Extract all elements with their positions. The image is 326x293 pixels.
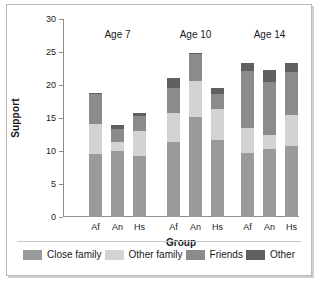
y-axis-tick-label: 15 <box>46 113 56 123</box>
bar-segment <box>89 154 102 217</box>
x-axis-tick-label: Af <box>243 222 252 232</box>
legend-label: Other <box>270 249 295 260</box>
y-axis-tick-label: 25 <box>46 47 56 57</box>
y-axis-tick-label: 20 <box>46 80 56 90</box>
bar-segment <box>167 142 180 217</box>
group-header-label: Age 14 <box>254 29 286 40</box>
bar-segment <box>285 63 298 72</box>
legend-label: Close family <box>47 249 101 260</box>
x-axis-tick-label: Hs <box>212 222 223 232</box>
legend-swatch <box>105 250 124 260</box>
bar-segment <box>241 71 254 128</box>
bar-segment <box>285 72 298 115</box>
bar-segment <box>111 142 124 151</box>
bar-segment <box>285 115 298 146</box>
bar-segment <box>167 88 180 114</box>
legend-swatch <box>186 250 205 260</box>
y-axis-tick <box>59 19 63 20</box>
y-axis-tick-label: 30 <box>46 14 56 24</box>
bar-segment <box>211 109 224 141</box>
x-axis-tick-label: Af <box>91 222 100 232</box>
legend-swatch <box>246 250 265 260</box>
bar-segment <box>211 140 224 217</box>
y-axis-tick <box>59 52 63 53</box>
bar-segment <box>263 70 276 82</box>
x-axis-tick-label: Hs <box>134 222 145 232</box>
bar-stack <box>167 78 180 217</box>
y-axis-tick-label: 10 <box>46 146 56 156</box>
y-axis-tick <box>59 85 63 86</box>
bar-segment <box>189 81 202 117</box>
bar-segment <box>133 156 146 217</box>
group-header-label: Age 10 <box>180 29 212 40</box>
x-axis-tick-label: Hs <box>286 222 297 232</box>
y-axis-tick-label: 5 <box>51 179 56 189</box>
bar-segment <box>89 94 102 124</box>
bar-stack <box>133 113 146 217</box>
bar-segment <box>285 146 298 217</box>
bar-stack <box>285 63 298 217</box>
legend-item: Other <box>246 249 295 260</box>
bar-segment <box>111 129 124 143</box>
legend-item: Friends <box>186 249 243 260</box>
y-axis-tick <box>59 118 63 119</box>
legend-label: Other family <box>129 249 183 260</box>
x-axis-tick-label: An <box>112 222 123 232</box>
chart-legend: Close familyOther familyFriendsOther <box>17 241 301 267</box>
x-axis-tick-label: An <box>190 222 201 232</box>
bar-segment <box>263 149 276 217</box>
bar-segment <box>111 151 124 217</box>
plot-area: 051015202530 AfAnHsAfAnHsAfAnHs <box>63 19 295 217</box>
y-axis-tick <box>59 184 63 185</box>
bar-segment <box>189 117 202 217</box>
bar-segment <box>89 124 102 154</box>
bar-stack <box>89 93 102 217</box>
group-header-label: Age 7 <box>104 29 130 40</box>
legend-item: Close family <box>23 249 101 260</box>
bar-segment <box>263 135 276 150</box>
legend-swatch <box>23 250 42 260</box>
y-axis-line <box>63 19 64 217</box>
bar-stack <box>189 53 202 217</box>
y-axis-tick <box>59 151 63 152</box>
y-axis-title: Support <box>10 98 21 138</box>
bar-stack <box>263 70 276 217</box>
bar-segment <box>241 128 254 153</box>
x-axis-tick-label: Af <box>169 222 178 232</box>
bar-segment <box>167 113 180 142</box>
bar-segment <box>189 54 202 81</box>
bar-segment <box>241 153 254 217</box>
bar-stack <box>241 63 254 217</box>
y-axis-tick-label: 0 <box>51 212 56 222</box>
bar-segment <box>241 63 254 71</box>
bar-segment <box>211 94 224 109</box>
bar-segment <box>133 116 146 131</box>
chart-figure: Support 051015202530 AfAnHsAfAnHsAfAnHs … <box>6 4 312 276</box>
x-axis-tick-label: An <box>264 222 275 232</box>
bar-stack <box>211 88 224 217</box>
legend-label: Friends <box>210 249 243 260</box>
bar-segment <box>167 78 180 87</box>
y-axis-tick <box>59 217 63 218</box>
bar-segment <box>133 131 146 155</box>
legend-item: Other family <box>105 249 183 260</box>
bar-stack <box>111 125 124 217</box>
bar-segment <box>263 82 276 135</box>
